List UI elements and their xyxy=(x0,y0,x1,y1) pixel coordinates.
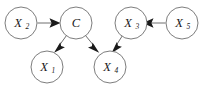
arrowhead-c-x4 xyxy=(88,42,99,52)
node-label-c: C xyxy=(72,16,81,30)
node-label-x5: X xyxy=(174,16,184,30)
node-x3[interactable]: X 3 xyxy=(115,7,147,39)
node-x4[interactable]: X 4 xyxy=(94,51,126,83)
edge-c-to-x4 xyxy=(86,36,100,53)
node-subscript-x2: 2 xyxy=(26,22,30,31)
edge-x3-to-x4 xyxy=(112,36,123,53)
arrowhead-c-x1 xyxy=(54,42,65,53)
node-label-x4: X xyxy=(102,60,112,74)
node-label-x2: X xyxy=(13,16,23,30)
edge-c-to-x1 xyxy=(54,36,67,53)
node-x5[interactable]: X 5 xyxy=(166,7,198,39)
node-c[interactable]: C xyxy=(60,7,92,39)
node-subscript-x5: 5 xyxy=(187,22,191,31)
node-subscript-x1: 1 xyxy=(52,66,56,75)
node-label-x3: X xyxy=(123,16,133,30)
node-x1[interactable]: X 1 xyxy=(31,51,63,83)
node-x2[interactable]: X 2 xyxy=(5,7,37,39)
edge-x2-to-c xyxy=(38,18,61,27)
dag-canvas: X 2 C X 3 X 5 xyxy=(0,0,204,88)
causal-dag-figure: X 2 C X 3 X 5 xyxy=(0,0,204,88)
node-subscript-x4: 4 xyxy=(115,66,119,75)
node-label-x1: X xyxy=(39,60,49,74)
node-layer: X 2 C X 3 X 5 xyxy=(5,7,198,83)
node-subscript-x3: 3 xyxy=(135,22,140,31)
